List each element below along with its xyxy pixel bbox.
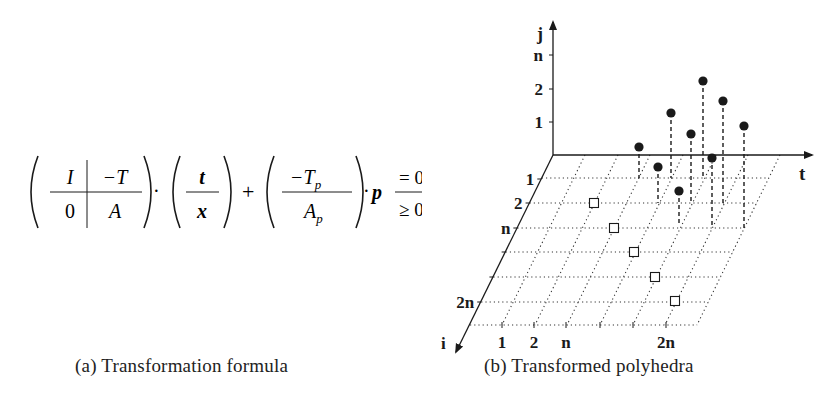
i-tick-label: 1: [526, 170, 535, 189]
filled-point: [666, 108, 675, 117]
filled-point: [718, 96, 727, 105]
bottom-tick-label: 1: [498, 333, 507, 352]
i-tick-label: 2n: [456, 293, 475, 312]
axis-labels: n2112n2n12n2njti: [441, 24, 806, 353]
grid-column-line: [697, 155, 780, 325]
i-tick-label: n: [501, 219, 511, 238]
axes: [456, 22, 812, 352]
filled-point: [686, 129, 695, 138]
i-axis-label: i: [441, 334, 446, 353]
filled-point: [653, 162, 662, 171]
floor-grid: [470, 155, 780, 325]
filled-point: [634, 142, 643, 151]
caption-b: (b) Transformed polyhedra: [484, 355, 694, 377]
i-tick-label: 2: [514, 194, 523, 213]
filled-point: [674, 186, 683, 195]
bottom-tick-label: 2n: [657, 333, 676, 352]
open-square-point: [630, 248, 639, 257]
j-tick-label: 1: [535, 113, 544, 132]
j-axis-label: j: [536, 24, 543, 44]
filled-point: [707, 153, 716, 162]
bottom-tick-label: n: [561, 333, 571, 352]
bottom-tick-label: 2: [530, 333, 539, 352]
open-square-point: [610, 224, 619, 233]
j-tick-label: 2: [535, 80, 544, 99]
t-axis-label: t: [799, 163, 806, 184]
grid-column-line: [567, 155, 650, 325]
filled-point: [698, 76, 707, 85]
open-square-point: [651, 273, 660, 282]
open-square-point: [671, 297, 680, 306]
i-axis: [456, 155, 553, 352]
transformed-polyhedra-figure: n2112n2n12n2njti: [0, 0, 828, 400]
open-square-point: [590, 199, 599, 208]
caption-a: (a) Transformation formula: [75, 355, 288, 377]
data-points: [590, 76, 749, 305]
filled-point: [739, 121, 748, 130]
j-tick-label: n: [534, 46, 544, 65]
grid-column-line: [535, 155, 618, 325]
grid-column-line: [502, 155, 585, 325]
